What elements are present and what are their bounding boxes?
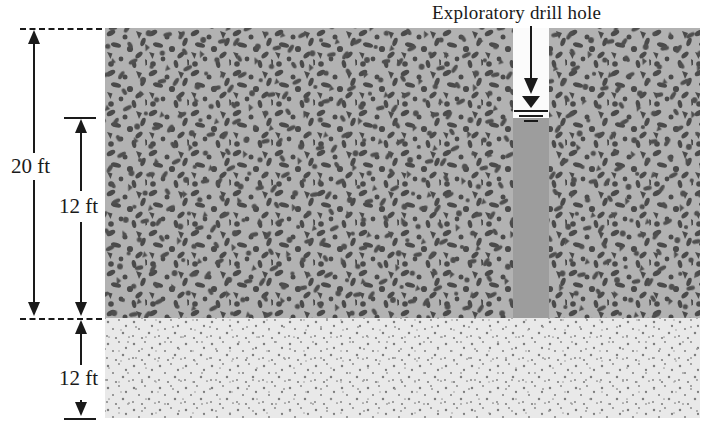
water-table-icon (513, 96, 549, 122)
drill-hole-water-column (513, 118, 549, 318)
datum-line-layer-boundary (20, 318, 102, 320)
tick-profile-bottom (64, 418, 96, 420)
dimension-line-lower-20ft (33, 180, 35, 304)
arrow-down-icon-head (524, 78, 538, 94)
dimension-arrowhead-bottom-12ft-upper (75, 302, 87, 316)
soil-layer-lower (105, 318, 700, 418)
drill-hole-callout-label: Exploratory drill hole (432, 2, 601, 24)
water-table-line-3 (524, 120, 538, 122)
arrow-down-icon (530, 26, 532, 82)
dimension-label-upper-layer: 12 ft (56, 193, 101, 220)
gravel-texture (105, 28, 700, 318)
dimension-arrowhead-bottom-20ft (28, 302, 40, 316)
water-table-line-2 (519, 115, 543, 117)
water-table-line-1 (514, 110, 548, 112)
dimension-label-total-depth: 20 ft (8, 153, 53, 180)
dimension-label-lower-layer: 12 ft (56, 365, 101, 392)
water-table-triangle (522, 96, 540, 108)
dimension-arrowhead-bottom-12ft-lower (75, 402, 87, 416)
dimension-line-lower-12ft-upper (80, 222, 82, 304)
soil-profile-block (105, 28, 700, 418)
dimension-line-upper-12ft-upper (80, 131, 82, 191)
dimension-line-upper-20ft (33, 42, 35, 157)
figure-canvas: Exploratory drill hole 20 ft 12 ft 12 ft (0, 0, 712, 435)
sand-texture (105, 318, 700, 418)
soil-layer-upper (105, 28, 700, 318)
